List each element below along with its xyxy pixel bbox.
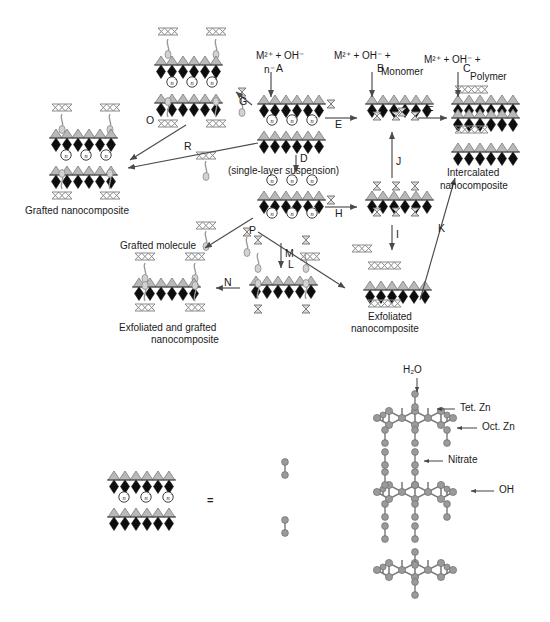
step-label-P: P xyxy=(249,224,256,236)
free-monomer-h xyxy=(327,196,335,204)
caption-single-layer-suspension: (single-layer suspension) xyxy=(228,165,339,176)
legend-equals-sign: = xyxy=(207,494,213,506)
step-label-A: A xyxy=(276,62,283,74)
structure-exfoliated-grafted-nanocomposite xyxy=(132,253,205,311)
label-nitrate: Nitrate xyxy=(448,454,477,465)
step-label-J: J xyxy=(396,155,401,167)
caption-intercalated-line1: Intercalated xyxy=(447,167,499,178)
free-monomer-e xyxy=(327,100,335,108)
structure-grafted-molecule xyxy=(196,222,216,251)
step-label-B: B xyxy=(377,62,384,74)
caption-grafted-molecule: Grafted molecule xyxy=(120,240,196,251)
step-label-C: C xyxy=(463,62,471,74)
step-label-I: I xyxy=(396,228,399,240)
step-label-G: G xyxy=(239,95,247,107)
label-tet-zn: Tet. Zn xyxy=(460,402,491,413)
figure-canvas: n - xyxy=(0,0,550,622)
step-label-L: L xyxy=(288,258,294,270)
step-label-O: O xyxy=(146,114,154,126)
caption-exfoliated-grafted-line2: nanocomposite xyxy=(151,334,219,345)
reagent-C-line1: M²⁺ + OH⁻ + xyxy=(424,54,481,65)
step-label-M: M xyxy=(285,247,294,259)
caption-exfoliated-grafted-line1: Exfoliated and grafted xyxy=(119,322,216,333)
label-oh: OH xyxy=(499,484,514,495)
free-ribbon-l xyxy=(300,253,320,260)
step-label-D: D xyxy=(300,152,308,164)
reagent-B-line1: M²⁺ + OH⁻ + xyxy=(334,50,391,61)
structure-free-chain-r xyxy=(196,152,216,181)
reagent-A-line2: n⁻ xyxy=(264,64,275,75)
arrow-O xyxy=(130,125,186,160)
step-label-N: N xyxy=(224,276,232,288)
caption-grafted-nanocomposite: Grafted nanocomposite xyxy=(25,205,129,216)
molecular-model xyxy=(282,391,457,599)
step-label-K: K xyxy=(438,222,445,234)
structure-polymer-stack-top xyxy=(451,86,520,118)
structure-ldh-stack-center xyxy=(257,95,326,154)
label-oct-zn: Oct. Zn xyxy=(482,421,515,432)
step-label-E: E xyxy=(335,118,342,130)
structure-single-layer-suspension xyxy=(257,174,326,218)
reagent-B-monomer: Monomer xyxy=(381,66,423,77)
step-label-F: F xyxy=(427,104,433,116)
step-label-R: R xyxy=(184,140,192,152)
caption-exfoliated-line2: nanocomposite xyxy=(351,323,419,334)
callout-arrows xyxy=(417,378,494,491)
structure-grafted-nanocomposite xyxy=(49,104,120,199)
legend-ldh-schematic xyxy=(107,471,176,531)
structure-intercalated-nanocomposite xyxy=(451,109,520,166)
diagram-graphics: n - xyxy=(0,0,550,622)
structure-exfoliated-grafted-single xyxy=(249,236,318,313)
step-label-H: H xyxy=(335,207,343,219)
structure-exfoliated-nanocomposite xyxy=(352,245,432,307)
caption-intercalated-line2: nanocomposite xyxy=(440,180,508,191)
reagent-A-line1: M²⁺ + OH⁻ xyxy=(248,50,312,61)
structure-single-sheet-monomers xyxy=(365,182,434,216)
label-h2o: H₂O xyxy=(403,364,422,375)
caption-exfoliated-line1: Exfoliated xyxy=(368,311,412,322)
structure-grafted-stack-top xyxy=(154,28,226,127)
reagent-C-polymer: Polymer xyxy=(470,71,507,82)
